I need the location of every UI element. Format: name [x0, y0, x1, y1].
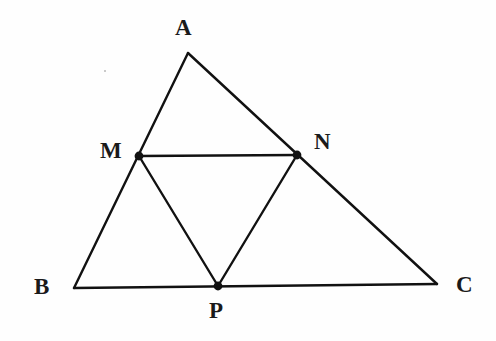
- point-markers-group: [135, 151, 302, 291]
- vertex-label-p: P: [209, 299, 223, 322]
- segment-ab: [74, 53, 188, 288]
- segment-mn: [139, 155, 297, 156]
- vertex-label-n: N: [314, 130, 331, 153]
- point-marker-m: [135, 152, 144, 161]
- scan-speck: [104, 70, 106, 72]
- vertex-label-a: A: [175, 16, 192, 39]
- geometry-figure: ABCMNP: [0, 0, 496, 341]
- segments-group: [74, 53, 437, 288]
- segment-bc: [74, 284, 437, 288]
- geometry-canvas: [0, 0, 496, 341]
- segment-mp: [139, 156, 218, 286]
- segment-np: [218, 155, 297, 286]
- segment-ac: [188, 53, 437, 284]
- vertex-label-c: C: [456, 273, 473, 296]
- point-marker-n: [293, 151, 302, 160]
- vertex-label-m: M: [100, 139, 122, 162]
- point-marker-p: [214, 282, 223, 291]
- vertex-label-b: B: [34, 275, 49, 298]
